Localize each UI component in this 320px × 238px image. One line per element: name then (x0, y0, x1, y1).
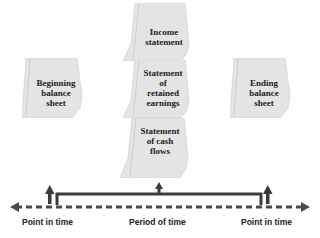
timeline-right-arrow-icon (301, 202, 310, 212)
timeline-left-arrow-icon (10, 202, 19, 212)
right-up-arrow-icon (263, 185, 273, 194)
doc-label-line: Ending (236, 78, 292, 88)
doc-label-line: flows (132, 146, 188, 156)
left-up-arrow-icon (45, 185, 55, 194)
beginning-balance-sheet-doc: Beginning balance sheet (22, 58, 86, 118)
retained-earnings-doc: Statement of retained earnings (123, 60, 193, 118)
doc-label-line: balance (236, 88, 292, 98)
period-of-time-label: Period of time (129, 217, 186, 227)
doc-label-line: Statement (132, 126, 188, 136)
doc-label-line: sheet (236, 98, 292, 108)
period-bracket (57, 194, 261, 205)
doc-label-line: Statement (137, 68, 189, 78)
doc-label-line: of (137, 78, 189, 88)
left-point-in-time-label: Point in time (22, 217, 73, 227)
doc-label-line: sheet (28, 98, 84, 108)
right-point-in-time-label: Point in time (241, 217, 292, 227)
doc-label-line: retained (137, 88, 189, 98)
doc-label-line: earnings (137, 98, 189, 108)
doc-label-line: statement (139, 37, 189, 47)
doc-label-line: Income (139, 27, 189, 37)
cash-flows-doc: Statement of cash flows (120, 118, 194, 178)
income-statement-doc: Income statement (123, 3, 193, 61)
center-up-arrow-icon (155, 182, 163, 189)
doc-label-line: of cash (132, 136, 188, 146)
doc-label-line: balance (28, 88, 84, 98)
ending-balance-sheet-doc: Ending balance sheet (230, 58, 294, 118)
doc-label-line: Beginning (28, 78, 84, 88)
